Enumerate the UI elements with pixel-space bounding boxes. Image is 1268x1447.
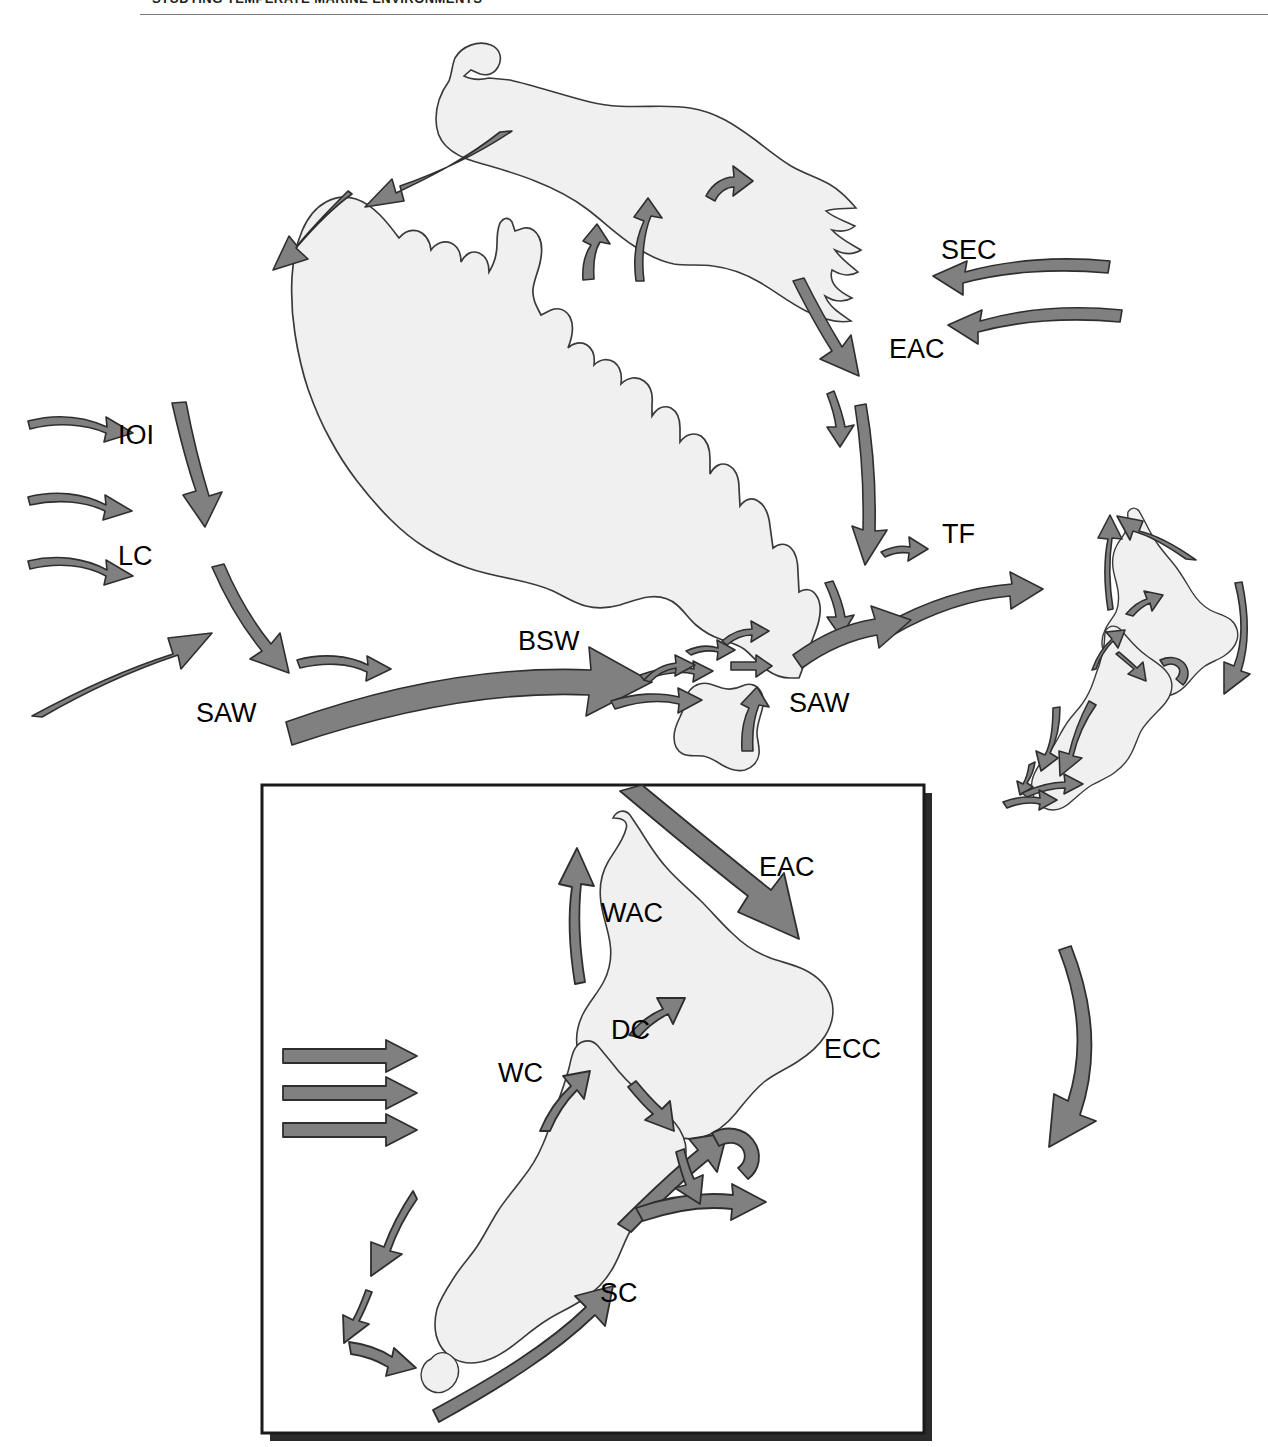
- inset-panel-graphic: [262, 785, 1096, 1441]
- arrow-lc-coast: [172, 402, 222, 527]
- current-label-lc: LC: [118, 543, 153, 570]
- arrow-eac-hook: [827, 391, 854, 447]
- current-label-eac: EAC: [889, 336, 945, 363]
- arrow-cape-up2: [583, 224, 610, 280]
- arrow-eac-2: [852, 404, 887, 565]
- inset-arrow-ecc: [1049, 946, 1096, 1147]
- current-label-eac-inset: EAC: [759, 854, 815, 881]
- current-label-tf: TF: [942, 521, 975, 548]
- current-label-ioi: IOI: [118, 422, 154, 449]
- main-map-graphic: [28, 43, 1250, 810]
- current-label-sec: SEC: [941, 237, 997, 264]
- arrow-ioi-2: [28, 493, 132, 520]
- arrow-bass-curve: [644, 655, 695, 682]
- current-label-bsw: BSW: [518, 628, 580, 655]
- running-head: STUDYING TEMPERATE MARINE ENVIRONMENTS: [152, 0, 482, 6]
- current-label-sc: SC: [600, 1280, 638, 1307]
- current-label-saw-w: SAW: [196, 700, 257, 727]
- current-label-dc: DC: [611, 1017, 650, 1044]
- arrow-lc-sw: [212, 564, 289, 673]
- current-label-saw-e: SAW: [789, 690, 850, 717]
- arrow-nw-sw: [365, 131, 512, 207]
- arrow-tf-small: [881, 537, 928, 561]
- arrow-sec-2: [948, 308, 1122, 344]
- figure-page: STUDYING TEMPERATE MARINE ENVIRONMENTS: [0, 0, 1268, 1447]
- current-label-ecc: ECC: [824, 1036, 881, 1063]
- arrow-saw-inflow: [32, 633, 212, 717]
- current-label-wc: WC: [498, 1060, 543, 1087]
- header-rule: [140, 14, 1268, 15]
- current-label-wac: WAC: [601, 900, 663, 927]
- arrow-tf-main: [885, 572, 1043, 635]
- arrow-sw-small-east: [297, 656, 391, 681]
- main-figure: [0, 18, 1268, 1447]
